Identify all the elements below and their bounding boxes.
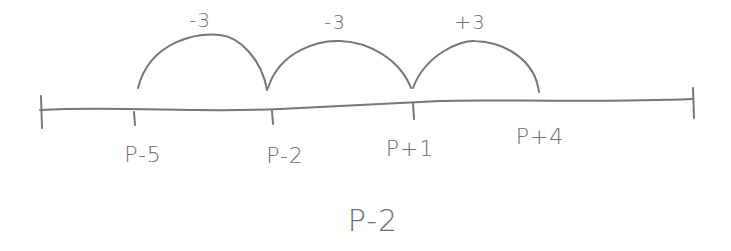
jump-arc-2	[268, 41, 411, 88]
jump-label-2: -3	[324, 10, 346, 34]
tick-label-p-5: P-5	[124, 142, 162, 167]
tick-label-p+1: P+1	[386, 136, 435, 161]
jump-label-1: -3	[189, 8, 211, 32]
jump-label-3: +3	[454, 10, 485, 34]
tick-label-p+4: P+4	[516, 124, 565, 149]
tick-p-2	[272, 111, 273, 124]
tick-p+1	[413, 103, 414, 119]
answer-label: P-2	[348, 203, 398, 238]
jump-arc-1	[138, 34, 267, 90]
right-end-cap	[693, 88, 694, 118]
tick-p-5	[134, 112, 135, 125]
number-line	[40, 99, 692, 110]
left-end-cap	[41, 96, 42, 128]
jump-arc-3	[413, 41, 539, 92]
tick-label-p-2: P-2	[266, 143, 304, 168]
